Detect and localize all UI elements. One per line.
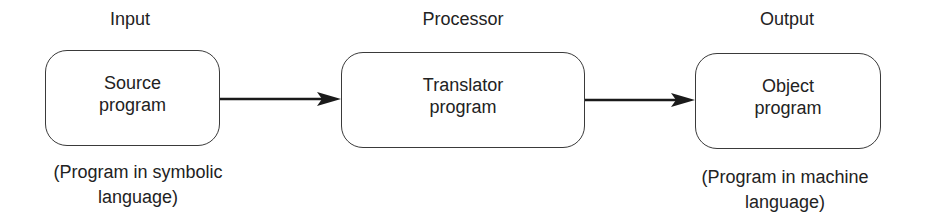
arrow-source-to-translator (220, 92, 341, 106)
arrow-translator-to-object (585, 93, 695, 107)
translation-flow-diagram: Input Processor Output Source program Tr… (0, 0, 925, 224)
arrows-layer (0, 0, 925, 224)
